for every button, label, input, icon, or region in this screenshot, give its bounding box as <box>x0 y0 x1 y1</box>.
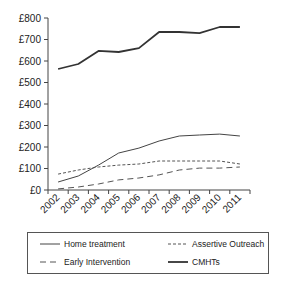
legend: Home treatment Assertive Outreach Early … <box>27 232 269 274</box>
long-dash-line-icon <box>40 259 60 265</box>
y-tick-label: £600 <box>19 56 42 67</box>
line-chart: £0£100£200£300£400£500£600£700£800 20022… <box>0 0 282 230</box>
x-tick-label: 2004 <box>78 191 102 215</box>
x-axis: 2002200320042005200620072008200920102011 <box>38 190 250 215</box>
x-tick-label: 2007 <box>139 191 163 215</box>
legend-label: Early Intervention <box>64 257 130 267</box>
legend-label: Home treatment <box>64 239 125 249</box>
x-tick-label: 2002 <box>38 191 62 215</box>
y-tick-label: £500 <box>19 77 42 88</box>
series-lines <box>58 27 240 189</box>
y-tick-label: £400 <box>19 99 42 110</box>
series-line-cmhts <box>58 27 240 69</box>
x-tick-label: 2009 <box>179 191 203 215</box>
series-line-early-intervention <box>58 167 240 189</box>
x-tick-label: 2005 <box>99 191 123 215</box>
x-tick-label: 2010 <box>200 191 224 215</box>
y-tick-label: £800 <box>19 13 42 24</box>
y-tick-label: £700 <box>19 34 42 45</box>
legend-item-cmhts: CMHTs <box>168 257 220 267</box>
y-tick-label: £300 <box>19 120 42 131</box>
solid-line-icon <box>40 241 60 247</box>
y-tick-label: £200 <box>19 142 42 153</box>
legend-item-home-treatment: Home treatment <box>40 239 125 249</box>
y-tick-label: £0 <box>30 185 42 196</box>
y-tick-label: £100 <box>19 163 42 174</box>
y-axis: £0£100£200£300£400£500£600£700£800 <box>19 13 48 196</box>
thick-solid-line-icon <box>168 259 188 265</box>
x-tick-label: 2011 <box>220 191 243 214</box>
x-tick-label: 2008 <box>159 191 183 215</box>
short-dash-line-icon <box>168 241 188 247</box>
legend-label: Assertive Outreach <box>192 239 264 249</box>
series-line-home-treatment <box>58 134 240 182</box>
x-tick-label: 2003 <box>58 191 82 215</box>
x-tick-label: 2006 <box>119 191 143 215</box>
legend-label: CMHTs <box>192 257 220 267</box>
legend-item-early-intervention: Early Intervention <box>40 257 130 267</box>
legend-item-assertive-outreach: Assertive Outreach <box>168 239 264 249</box>
